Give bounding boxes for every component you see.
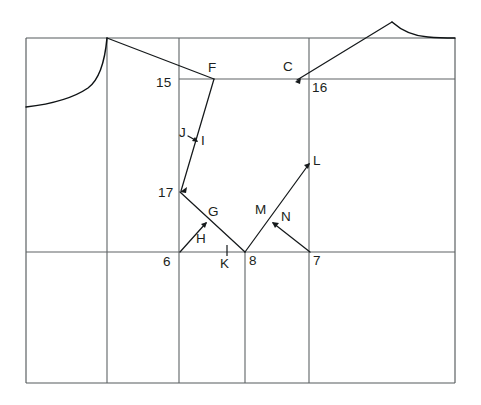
line-7-to-M — [273, 223, 310, 252]
point-label-17: 17 — [158, 186, 173, 200]
right-neckline-curve — [392, 22, 455, 38]
shoulder-lines-group — [107, 22, 392, 80]
point-label-K: K — [220, 257, 229, 271]
pattern-drawing-canvas — [0, 0, 481, 405]
frame-group — [26, 38, 455, 383]
point-label-7: 7 — [313, 254, 321, 268]
point-label-16: 16 — [312, 81, 327, 95]
point-label-F: F — [208, 61, 216, 75]
line-17-to-8 — [180, 192, 245, 252]
right-neckline-curve-group — [392, 22, 455, 38]
left-neckline-curve-group — [26, 38, 107, 107]
point-label-H: H — [196, 232, 206, 246]
line-7-to-M-group — [272, 222, 310, 252]
point-label-6: 6 — [163, 255, 171, 269]
point-label-N: N — [281, 210, 291, 224]
point-label-15: 15 — [156, 76, 171, 90]
grid-group — [26, 38, 455, 383]
point-label-J: J — [179, 126, 186, 140]
point-label-8: 8 — [249, 254, 257, 268]
point-label-G: G — [208, 205, 219, 219]
point-label-L: L — [313, 154, 321, 168]
line-17-to-8-group — [180, 192, 245, 252]
point-label-M: M — [255, 203, 266, 217]
point-label-C: C — [283, 60, 293, 74]
point-label-I: I — [201, 134, 205, 148]
left-neckline-curve — [26, 38, 107, 107]
pattern-diagram: 15 F C 16 J I L 17 G M N H 6 K 8 7 — [0, 0, 481, 405]
left-shoulder-line — [107, 38, 214, 79]
right-shoulder-line — [297, 22, 392, 80]
